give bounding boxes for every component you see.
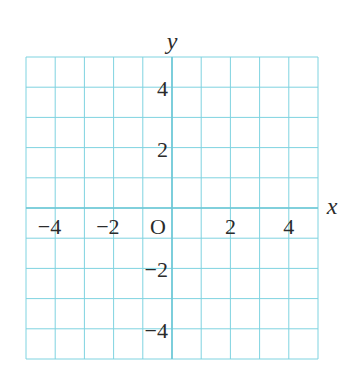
x-tick-label: −4	[38, 216, 61, 238]
y-tick-label: −2	[145, 259, 168, 281]
x-tick-label: −2	[96, 216, 119, 238]
y-axis-label: y	[167, 30, 178, 52]
y-tick-label: 2	[157, 139, 168, 161]
origin-label: O	[150, 216, 166, 238]
axis-lines	[26, 57, 318, 359]
y-tick-label: −4	[145, 320, 168, 342]
x-tick-label: 4	[283, 216, 294, 238]
coordinate-grid	[0, 0, 362, 383]
x-tick-label: 2	[225, 216, 236, 238]
x-axis-label: x	[327, 195, 338, 217]
y-tick-label: 4	[157, 78, 168, 100]
